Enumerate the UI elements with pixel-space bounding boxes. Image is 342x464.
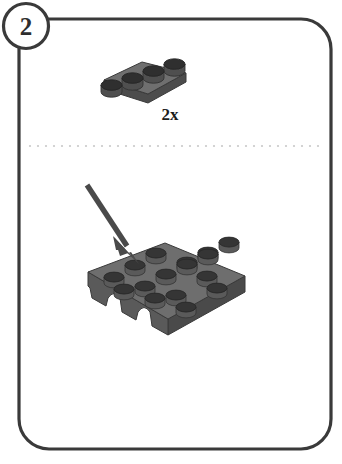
instruction-page: 2x [0, 0, 342, 464]
step-number-badge: 2 [0, 0, 342, 464]
step-number-label: 2 [20, 13, 33, 40]
